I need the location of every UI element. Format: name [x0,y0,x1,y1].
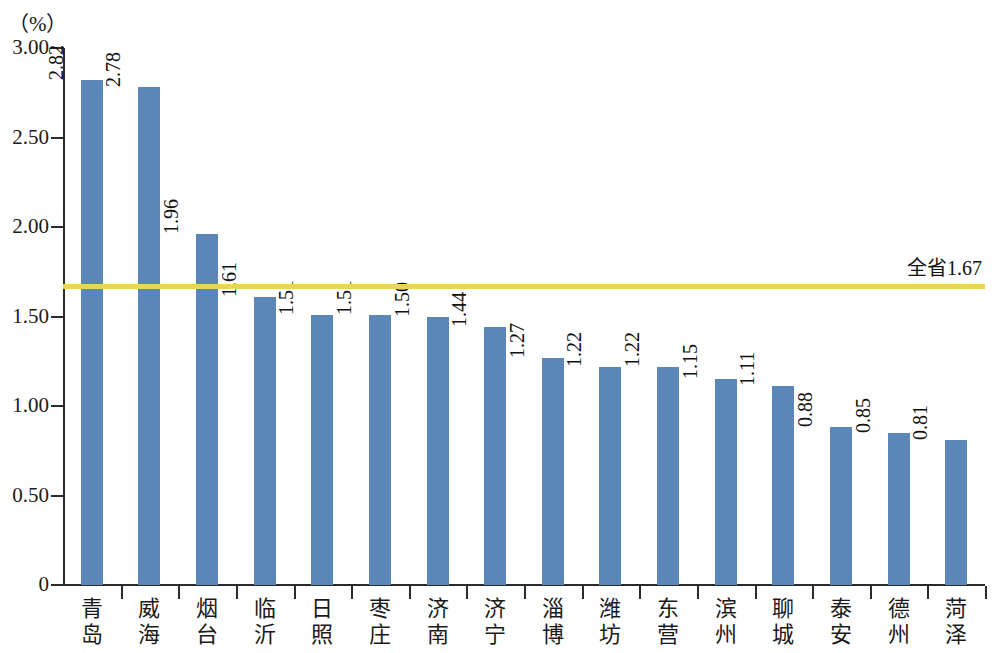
bar-value-label: 1.22 [564,332,620,367]
x-axis-category-label: 日照 [299,596,345,648]
x-axis-tick-mark [294,586,296,599]
bar [542,358,564,585]
reference-line [63,284,985,289]
category-label-char: 泰 [818,596,864,622]
x-axis-category-label: 滨州 [703,596,749,648]
x-axis-category-label: 菏泽 [933,596,979,648]
bar [81,80,103,585]
category-label-char: 烟 [184,596,230,622]
x-axis-tick-mark [351,586,353,599]
category-label-char: 宁 [472,622,518,648]
category-label-char: 临 [242,596,288,622]
category-label-char: 济 [472,596,518,622]
category-label-char: 庄 [357,622,403,648]
category-label-char: 日 [299,596,345,622]
x-axis-category-label: 烟台 [184,596,230,648]
bar-value-label: 1.61 [219,262,275,297]
x-axis-category-label: 聊城 [760,596,806,648]
bar-value-label: 1.22 [622,332,678,367]
x-axis-category-label: 济宁 [472,596,518,648]
category-label-char: 泽 [933,622,979,648]
bar-value-label: 1.27 [507,323,563,358]
bar-value-label: 0.88 [795,392,851,427]
x-axis-tick-mark [582,586,584,599]
y-axis-tick-mark [51,226,64,228]
y-axis-tick-label: 1.50 [1,306,49,327]
x-axis-tick-mark [927,586,929,599]
y-axis-tick-label: 0.50 [1,485,49,506]
y-axis-tick-mark [51,495,64,497]
bar-value-label: 2.78 [103,52,159,87]
reference-line-label: 全省1.67 [907,258,982,278]
y-axis-tick-label: 3.00 [1,37,49,58]
y-axis-tick-label: 0 [1,574,49,595]
category-label-char: 照 [299,622,345,648]
category-label-char: 聊 [760,596,806,622]
category-label-char: 博 [530,622,576,648]
bar-value-label: 0.85 [853,398,909,433]
category-label-char: 威 [126,596,172,622]
x-axis-tick-mark [697,586,699,599]
bar [888,433,910,585]
category-label-char: 德 [876,596,922,622]
bar-value-label: 1.15 [680,344,736,379]
x-axis-tick-mark [178,586,180,599]
category-label-char: 坊 [587,622,633,648]
bar [484,327,506,585]
x-axis-category-label: 临沂 [242,596,288,648]
category-label-char: 安 [818,622,864,648]
bar [369,315,391,585]
category-label-char: 淄 [530,596,576,622]
bar [715,379,737,585]
x-axis-category-label: 潍坊 [587,596,633,648]
category-label-char: 菏 [933,596,979,622]
x-axis-tick-mark [236,586,238,599]
category-label-char: 台 [184,622,230,648]
x-axis-category-label: 德州 [876,596,922,648]
x-axis-tick-mark [466,586,468,599]
category-label-char: 州 [703,622,749,648]
category-label-char: 城 [760,622,806,648]
bar [311,315,333,585]
category-label-char: 南 [415,622,461,648]
category-label-char: 滨 [703,596,749,622]
x-axis-tick-mark [639,586,641,599]
bar [138,87,160,585]
y-axis-tick-labels: 00.501.001.502.002.503.00 [0,0,49,653]
bar-value-label: 2.82 [46,45,102,80]
bar-value-label: 1.96 [161,199,217,234]
x-axis-category-label: 淄博 [530,596,576,648]
x-axis-category-label: 泰安 [818,596,864,648]
x-axis-category-label: 威海 [126,596,172,648]
x-axis-category-label: 东营 [645,596,691,648]
bar [657,367,679,585]
bar [772,386,794,585]
bar-value-label: 0.81 [910,405,966,440]
y-axis-tick-mark [51,405,64,407]
category-label-char: 济 [415,596,461,622]
category-label-char: 岛 [69,622,115,648]
category-label-char: 沂 [242,622,288,648]
category-label-char: 枣 [357,596,403,622]
category-label-char: 营 [645,622,691,648]
x-axis-tick-mark [409,586,411,599]
y-axis-tick-label: 2.50 [1,127,49,148]
y-axis-tick-mark [51,137,64,139]
category-label-char: 青 [69,596,115,622]
bar-value-label: 1.44 [449,292,505,327]
y-axis-tick-mark [51,316,64,318]
bar-value-label: 1.11 [737,352,793,386]
x-axis-category-label: 枣庄 [357,596,403,648]
category-label-char: 潍 [587,596,633,622]
category-label-char: 东 [645,596,691,622]
bar [599,367,621,585]
category-label-char: 海 [126,622,172,648]
x-axis-category-label: 济南 [415,596,461,648]
x-axis-tick-mark [121,586,123,599]
x-axis-tick-mark [870,586,872,599]
y-axis-tick-label: 1.00 [1,395,49,416]
bar [254,297,276,585]
x-axis-tick-mark [524,586,526,599]
x-axis-tick-mark [985,586,987,599]
bar [427,317,449,586]
